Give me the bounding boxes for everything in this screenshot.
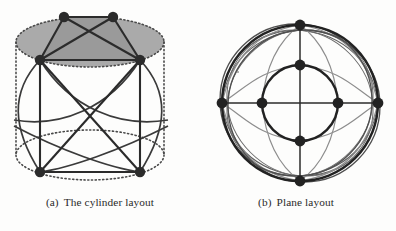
caption-cylinder: (a)The cylinder layout bbox=[0, 196, 200, 208]
caption-cylinder-label: (a) bbox=[46, 196, 59, 208]
panel-plane-layout: (b)Plane layout bbox=[196, 0, 396, 231]
plane-node-inner-left bbox=[257, 98, 268, 109]
plane-node-outer-top bbox=[295, 20, 306, 31]
cylinder-node-top-back-right bbox=[108, 12, 118, 22]
figure-root: (a)The cylinder layout bbox=[0, 0, 396, 231]
connector-arc-11 bbox=[262, 103, 300, 181]
cylinder-diagram bbox=[0, 0, 200, 196]
cylinder-svg bbox=[0, 0, 200, 196]
plane-node-inner-bottom bbox=[295, 136, 306, 147]
connector-arc-9 bbox=[262, 25, 300, 103]
cylinder-node-top-front-left bbox=[35, 55, 45, 65]
speck-artifact bbox=[237, 71, 239, 73]
connector-arc-12 bbox=[300, 103, 338, 181]
plane-node-outer-left bbox=[217, 98, 228, 109]
caption-cylinder-text: The cylinder layout bbox=[64, 196, 154, 208]
plane-svg bbox=[196, 0, 396, 196]
plane-node-inner-right bbox=[333, 98, 344, 109]
wrap-arc-1 bbox=[18, 60, 40, 172]
plane-node-inner-top bbox=[295, 60, 306, 71]
cylinder-node-bottom-front-left bbox=[35, 167, 45, 177]
cylinder-node-top-back-left bbox=[59, 12, 69, 22]
panel-cylinder-layout: (a)The cylinder layout bbox=[0, 0, 200, 231]
plane-node-outer-bottom bbox=[295, 176, 306, 187]
plane-node-outer-right bbox=[373, 98, 384, 109]
connector-arc-10 bbox=[300, 25, 338, 103]
caption-plane-label: (b) bbox=[258, 196, 271, 208]
caption-plane: (b)Plane layout bbox=[196, 196, 396, 208]
wrap-arc-2 bbox=[140, 60, 162, 172]
caption-plane-text: Plane layout bbox=[277, 196, 334, 208]
plane-diagram bbox=[196, 0, 396, 196]
cylinder-node-top-front-right bbox=[135, 55, 145, 65]
wrap-arc-3 bbox=[40, 60, 168, 122]
cylinder-node-bottom-front-right bbox=[135, 167, 145, 177]
